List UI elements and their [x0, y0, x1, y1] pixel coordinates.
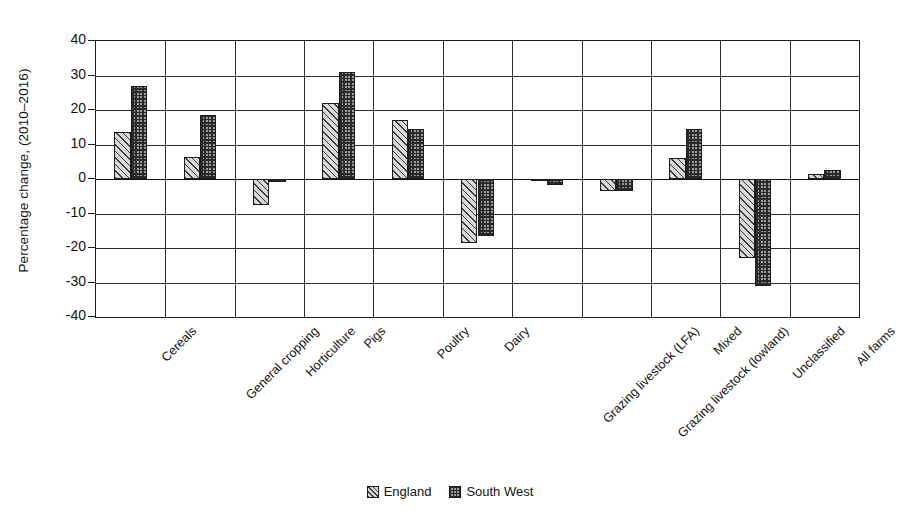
gridline-horizontal — [96, 110, 859, 111]
bar-england-0 — [114, 132, 130, 179]
legend-label-south-west: South West — [466, 484, 533, 499]
bar-england-5 — [461, 179, 477, 243]
y-tick-mark — [88, 247, 95, 248]
bar-england-3 — [322, 103, 338, 179]
y-tick-mark — [88, 144, 95, 145]
bar-england-10 — [808, 174, 824, 179]
gridline-horizontal — [96, 283, 859, 284]
legend-item-england: England — [367, 484, 432, 499]
bar-england-2 — [253, 179, 269, 205]
x-axis-label-5: Dairy — [501, 324, 532, 355]
gridline-vertical — [512, 41, 513, 317]
y-tick-mark — [88, 40, 95, 41]
bar-england-4 — [392, 120, 408, 179]
x-axis-label-9: Unclassified — [790, 324, 848, 382]
y-axis-ticks: 403020100-10-20-30-40 — [0, 40, 86, 318]
legend-swatch-england-icon — [367, 486, 379, 498]
bar-southwest-4 — [408, 129, 424, 179]
y-tick-mark — [88, 75, 95, 76]
gridline-vertical — [582, 41, 583, 317]
gridline-vertical — [235, 41, 236, 317]
bar-southwest-6 — [547, 179, 563, 185]
bar-england-7 — [600, 179, 616, 191]
bar-england-9 — [739, 179, 755, 258]
y-tick-mark — [88, 213, 95, 214]
y-tick-mark — [88, 316, 95, 317]
legend-label-england: England — [384, 484, 432, 499]
x-axis-labels: CerealsGeneral croppingHorticulturePigsP… — [95, 318, 860, 458]
x-axis-label-6: Grazing livestock (LFA) — [600, 324, 702, 426]
x-axis-label-10: All farms — [854, 324, 899, 369]
gridline-horizontal — [96, 76, 859, 77]
chart-legend: England South West — [0, 484, 900, 499]
bar-southwest-7 — [616, 179, 632, 191]
x-axis-label-3: Pigs — [361, 324, 388, 351]
gridline-vertical — [651, 41, 652, 317]
bar-southwest-0 — [131, 86, 147, 179]
y-tick-mark — [88, 109, 95, 110]
gridline-vertical — [790, 41, 791, 317]
bar-southwest-8 — [686, 129, 702, 179]
bar-southwest-5 — [478, 179, 494, 236]
bar-southwest-2 — [269, 179, 285, 182]
x-axis-label-0: Cereals — [158, 324, 199, 365]
gridline-vertical — [373, 41, 374, 317]
gridline-vertical — [304, 41, 305, 317]
legend-item-south-west: South West — [449, 484, 533, 499]
bar-southwest-3 — [339, 72, 355, 179]
bar-southwest-9 — [755, 179, 771, 286]
gridline-vertical — [720, 41, 721, 317]
y-tick-mark — [88, 178, 95, 179]
bar-southwest-10 — [824, 170, 840, 179]
legend-swatch-south-west-icon — [449, 486, 461, 498]
x-axis-label-4: Poultry — [435, 324, 473, 362]
bar-england-8 — [669, 158, 685, 179]
gridline-vertical — [443, 41, 444, 317]
plot-area — [95, 40, 860, 318]
bar-southwest-1 — [200, 115, 216, 179]
bar-england-6 — [531, 179, 547, 181]
x-axis-label-8: Mixed — [710, 324, 744, 358]
y-tick-mark — [88, 282, 95, 283]
gridline-vertical — [165, 41, 166, 317]
bar-chart: Percentage change, (2010–2016) 403020100… — [0, 0, 900, 531]
bar-england-1 — [184, 157, 200, 179]
